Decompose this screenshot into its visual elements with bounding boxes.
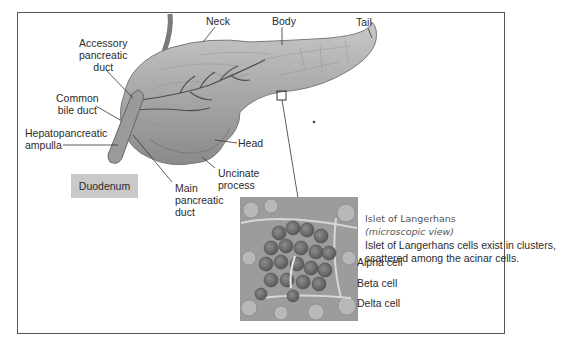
label-main-pancreatic-duct: Main pancreatic duct xyxy=(175,182,223,218)
label-beta-cell: Beta cell xyxy=(357,277,397,289)
label-neck: Neck xyxy=(206,15,230,27)
islet-subtitle: (microscopic view) xyxy=(365,225,456,238)
label-alpha-cell: Alpha cell xyxy=(357,256,403,268)
label-tail: Tail xyxy=(356,16,372,28)
islet-title-block: Islet of Langerhans (microscopic view) xyxy=(365,212,456,238)
islet-cells-illustration xyxy=(241,198,357,320)
label-duodenum: Duodenum xyxy=(71,174,138,198)
label-common-bile-duct: Common bile duct xyxy=(56,92,99,116)
vessel xyxy=(164,14,170,52)
label-hepatopancreatic-ampulla: Hepatopancreatic ampulla xyxy=(25,127,107,151)
label-head: Head xyxy=(238,137,263,149)
label-accessory-pancreatic-duct: Accessory pancreatic duct xyxy=(79,37,127,73)
label-delta-cell: Delta cell xyxy=(357,297,400,309)
label-uncinate-process: Uncinate process xyxy=(218,167,259,191)
islet-title: Islet of Langerhans xyxy=(365,212,456,225)
label-body: Body xyxy=(272,15,296,27)
islet-microscopic-image xyxy=(240,197,358,321)
